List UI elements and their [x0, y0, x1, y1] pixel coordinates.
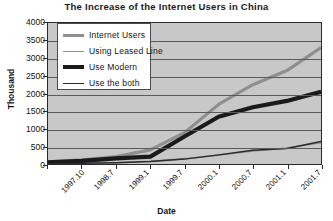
- legend-label: Use Modern: [89, 62, 137, 72]
- chart-container: The Increase of the Internet Users in Ch…: [0, 0, 333, 221]
- x-tick-label: 1998.7: [93, 168, 117, 192]
- x-tick-mark: [322, 165, 323, 169]
- x-tick-mark: [185, 165, 186, 169]
- legend-swatch-icon: [63, 65, 84, 69]
- y-tick-label: 4000: [13, 18, 45, 26]
- y-tick-mark: [43, 129, 47, 130]
- x-tick-label: 2000.1: [196, 168, 220, 192]
- y-tick-label: 2500: [13, 72, 45, 80]
- y-tick-mark: [43, 147, 47, 148]
- y-tick-label: 1000: [13, 125, 45, 133]
- legend-swatch-icon: [63, 51, 84, 52]
- x-tick-mark: [150, 165, 151, 169]
- y-tick-mark: [43, 58, 47, 59]
- legend-label: Internet Users: [89, 30, 145, 40]
- x-tick-label: 1999.7: [161, 168, 185, 192]
- y-tick-label: 1500: [13, 107, 45, 115]
- y-tick-mark: [43, 40, 47, 41]
- legend-label: Use the both: [89, 78, 140, 88]
- x-tick-mark: [81, 165, 82, 169]
- legend-swatch-icon: [63, 34, 84, 37]
- series-line: [48, 92, 321, 163]
- y-tick-label: 3500: [13, 36, 45, 44]
- legend-item: Internet Users: [58, 27, 150, 43]
- gridline: [48, 112, 321, 113]
- x-tick-mark: [288, 165, 289, 169]
- gridline: [48, 148, 321, 149]
- x-tick-label: 1999.1: [127, 168, 151, 192]
- x-tick-label: 1997.10: [59, 168, 86, 195]
- x-tick-mark: [219, 165, 220, 169]
- legend-item: Using Leased Line: [58, 43, 150, 59]
- x-axis-title: Date: [0, 206, 333, 216]
- y-tick-label: 3000: [13, 54, 45, 62]
- y-tick-mark: [43, 22, 47, 23]
- y-tick-mark: [43, 111, 47, 112]
- chart-title: The Increase of the Internet Users in Ch…: [0, 1, 333, 12]
- x-tick-mark: [47, 165, 48, 169]
- gridline: [48, 130, 321, 131]
- x-tick-label: 2001.1: [264, 168, 288, 192]
- legend-item: Use the both: [58, 75, 150, 91]
- y-tick-mark: [43, 76, 47, 77]
- legend-label: Using Leased Line: [89, 46, 163, 56]
- y-axis-tick-labels: 40003500300025002000150010005000: [13, 22, 45, 165]
- x-tick-label: 2000.7: [230, 168, 254, 192]
- legend-item: Use Modern: [58, 59, 150, 75]
- x-axis-tick-labels: 1997.101998.71999.11999.72000.12000.7200…: [0, 168, 333, 202]
- y-tick-label: 2000: [13, 90, 45, 98]
- y-tick-label: 500: [13, 143, 45, 151]
- x-tick-label: 2001.7: [299, 168, 323, 192]
- x-tick-mark: [116, 165, 117, 169]
- x-tick-mark: [253, 165, 254, 169]
- y-tick-mark: [43, 94, 47, 95]
- legend-swatch-icon: [63, 83, 84, 84]
- chart-legend: Internet UsersUsing Leased LineUse Moder…: [57, 23, 151, 90]
- gridline: [48, 95, 321, 96]
